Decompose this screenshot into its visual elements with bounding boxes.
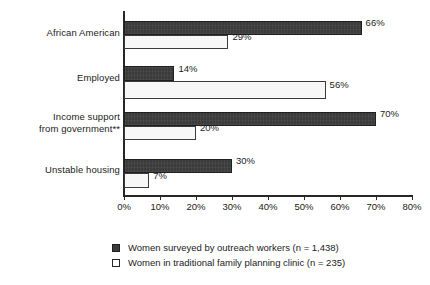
- legend-label-outreach: Women surveyed by outreach workers (n = …: [128, 242, 339, 253]
- category-label-african-american: African American: [47, 27, 120, 39]
- x-tick: [160, 196, 161, 200]
- x-tick: [196, 196, 197, 200]
- category-label-income-support: Income support from government**: [39, 111, 120, 134]
- bar-value-label: 56%: [330, 79, 349, 90]
- x-tick: [376, 196, 377, 200]
- x-tick: [268, 196, 269, 200]
- bar-value-label: 30%: [236, 155, 255, 166]
- bar: [124, 173, 149, 188]
- x-tick: [232, 196, 233, 200]
- x-tick-label: 60%: [330, 201, 349, 212]
- bar-value-label: 20%: [200, 122, 219, 133]
- bar: [124, 159, 232, 173]
- legend-item-clinic: Women in traditional family planning cli…: [112, 255, 345, 270]
- legend-item-outreach: Women surveyed by outreach workers (n = …: [112, 240, 345, 255]
- category-label-unstable-housing: Unstable housing: [45, 164, 120, 176]
- x-tick-label: 30%: [222, 201, 241, 212]
- bar: [124, 112, 376, 126]
- legend-label-clinic: Women in traditional family planning cli…: [128, 257, 345, 268]
- x-tick: [304, 196, 305, 200]
- bar-value-label: 14%: [178, 63, 197, 74]
- bar-value-label: 29%: [232, 31, 251, 42]
- x-tick-label: 0%: [117, 201, 131, 212]
- bar-value-label: 66%: [366, 17, 385, 28]
- bar-chart: African American Employed Income support…: [0, 0, 430, 285]
- category-label-employed: Employed: [77, 72, 120, 84]
- chart-legend: Women surveyed by outreach workers (n = …: [112, 240, 345, 270]
- legend-swatch-light: [112, 259, 120, 267]
- x-tick-label: 70%: [366, 201, 385, 212]
- x-tick-label: 10%: [150, 201, 169, 212]
- x-tick-label: 50%: [294, 201, 313, 212]
- bar: [124, 66, 174, 81]
- bar-value-label: 7%: [153, 170, 167, 181]
- x-tick-label: 20%: [186, 201, 205, 212]
- x-tick-label: 80%: [402, 201, 421, 212]
- x-tick-label: 40%: [258, 201, 277, 212]
- legend-swatch-dark: [112, 244, 120, 252]
- bar-value-label: 70%: [380, 108, 399, 119]
- x-tick: [124, 196, 125, 200]
- bar: [124, 81, 326, 99]
- bar: [124, 126, 196, 140]
- plot-area: 0%10%20%30%40%50%60%70%80% 66%29%14%56%7…: [124, 11, 412, 196]
- x-tick: [340, 196, 341, 200]
- x-tick: [412, 196, 413, 200]
- bar: [124, 35, 228, 49]
